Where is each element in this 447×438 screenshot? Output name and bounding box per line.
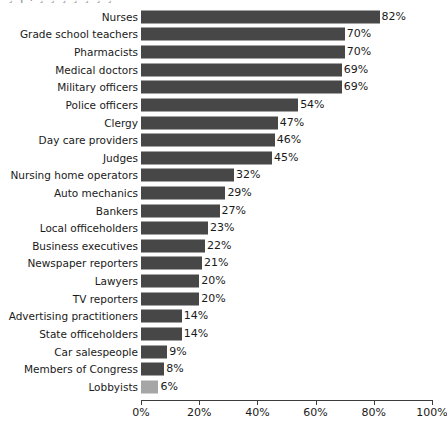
- bar: [141, 169, 234, 182]
- category-label: Lobbyists: [88, 381, 138, 393]
- bar-value-label: 46%: [277, 134, 301, 146]
- bar: [141, 134, 275, 147]
- bar: [141, 380, 158, 393]
- bar: [141, 81, 342, 94]
- bar-value-label: 47%: [280, 117, 304, 129]
- category-label: Nurses: [102, 11, 138, 23]
- x-axis-tick: [374, 400, 375, 405]
- category-label: TV reporters: [73, 293, 138, 305]
- x-axis-tick: [316, 400, 317, 405]
- category-label: Judges: [103, 152, 138, 164]
- bar-value-label: 27%: [222, 205, 246, 217]
- x-axis-tick-label: 40%: [245, 406, 269, 419]
- bar-row: Military officers69%: [0, 78, 447, 96]
- category-label: Members of Congress: [24, 363, 138, 375]
- bar-row: Grade school teachers70%: [0, 26, 447, 44]
- category-label: Auto mechanics: [54, 187, 138, 199]
- bar: [141, 28, 345, 41]
- x-axis-tick: [257, 400, 258, 405]
- bar-row: Business executives22%: [0, 237, 447, 255]
- bar-row: State officeholders14%: [0, 325, 447, 343]
- bar-row: TV reporters20%: [0, 290, 447, 308]
- bar-row: Local officeholders23%: [0, 219, 447, 237]
- x-axis-tick-label: 0%: [132, 406, 149, 419]
- bar-value-label: 14%: [184, 310, 208, 322]
- bar-value-label: 21%: [204, 257, 228, 269]
- bar-row: Pharmacists70%: [0, 43, 447, 61]
- bar-value-label: 45%: [274, 152, 298, 164]
- bar-row: Lawyers20%: [0, 272, 447, 290]
- x-axis-tick-label: 20%: [187, 406, 211, 419]
- category-label: Local officeholders: [40, 222, 138, 234]
- category-label: Clergy: [104, 117, 138, 129]
- category-label: Medical doctors: [55, 64, 138, 76]
- bar: [141, 98, 298, 111]
- bar: [141, 327, 182, 340]
- bar: [141, 275, 199, 288]
- bar-row: Nursing home operators32%: [0, 167, 447, 185]
- bar: [141, 63, 342, 76]
- bar: [141, 186, 225, 199]
- category-label: Day care providers: [39, 134, 138, 146]
- bar: [141, 10, 380, 23]
- bar: [141, 257, 202, 270]
- bar: [141, 292, 199, 305]
- bar-value-label: 32%: [236, 169, 260, 181]
- bar-value-label: 70%: [347, 28, 371, 40]
- bar-row: Advertising practitioners14%: [0, 308, 447, 326]
- bar-row: Auto mechanics29%: [0, 184, 447, 202]
- category-label: Advertising practitioners: [9, 310, 138, 322]
- x-axis-tick: [141, 400, 142, 405]
- bar-row: Nurses82%: [0, 8, 447, 26]
- bar-value-label: 20%: [201, 275, 225, 287]
- bar-row: Judges45%: [0, 149, 447, 167]
- category-label: Car salespeople: [54, 346, 138, 358]
- bar-value-label: 70%: [347, 46, 371, 58]
- x-axis-tick-label: 100%: [416, 406, 447, 419]
- category-label: Bankers: [96, 205, 138, 217]
- x-axis-tick-label: 80%: [362, 406, 386, 419]
- bar-value-label: 14%: [184, 328, 208, 340]
- bar-value-label: 20%: [201, 293, 225, 305]
- bar-value-label: 23%: [210, 222, 234, 234]
- bar: [141, 46, 345, 59]
- category-label: Lawyers: [95, 275, 138, 287]
- bar-row: Newspaper reporters21%: [0, 255, 447, 273]
- bar-row: Bankers27%: [0, 202, 447, 220]
- bar-chart: ¸ ¡ ı ¸ ¸ ¸ ¸ ¸ ¸ ¸ Nurses82%Grade schoo…: [0, 0, 447, 438]
- bar-value-label: 69%: [344, 64, 368, 76]
- bar: [141, 363, 164, 376]
- bar-value-label: 8%: [166, 363, 183, 375]
- x-axis-tick: [432, 400, 433, 405]
- category-label: Grade school teachers: [20, 28, 138, 40]
- bar: [141, 151, 272, 164]
- x-axis-tick: [199, 400, 200, 405]
- bar-row: Car salespeople9%: [0, 343, 447, 361]
- bar: [141, 239, 205, 252]
- bar-value-label: 29%: [227, 187, 251, 199]
- bar-row: Day care providers46%: [0, 131, 447, 149]
- bar-value-label: 82%: [382, 11, 406, 23]
- bar-row: Lobbyists6%: [0, 378, 447, 396]
- bar-row: Medical doctors69%: [0, 61, 447, 79]
- bar-value-label: 69%: [344, 81, 368, 93]
- bar: [141, 222, 208, 235]
- bar-value-label: 22%: [207, 240, 231, 252]
- category-label: Newspaper reporters: [27, 257, 138, 269]
- bar: [141, 204, 220, 217]
- bar-row: Clergy47%: [0, 114, 447, 132]
- category-label: Pharmacists: [74, 46, 138, 58]
- bar: [141, 345, 167, 358]
- bar: [141, 116, 278, 129]
- bar-value-label: 6%: [160, 381, 177, 393]
- bar-row: Members of Congress8%: [0, 360, 447, 378]
- plot-area: Nurses82%Grade school teachers70%Pharmac…: [0, 0, 447, 438]
- x-axis-tick-label: 60%: [303, 406, 327, 419]
- category-label: Police officers: [66, 99, 138, 111]
- category-label: Business executives: [32, 240, 138, 252]
- bar-value-label: 9%: [169, 346, 186, 358]
- category-label: State officeholders: [39, 328, 138, 340]
- bar-row: Police officers54%: [0, 96, 447, 114]
- category-label: Nursing home operators: [10, 169, 138, 181]
- category-label: Military officers: [57, 81, 138, 93]
